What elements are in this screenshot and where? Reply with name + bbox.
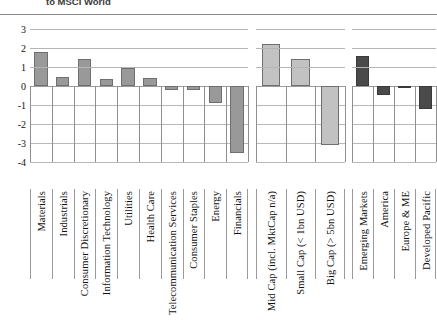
category-label: Information Technology <box>101 191 112 295</box>
gridline-upper <box>30 29 248 30</box>
y-axis-tick-label: 3 <box>21 24 26 35</box>
bar <box>321 86 339 145</box>
category-label: Emerging Markets <box>357 191 368 271</box>
category-cell: Utilities <box>117 189 139 322</box>
category-separator <box>344 189 345 279</box>
bar <box>419 86 432 109</box>
bar <box>100 79 114 86</box>
gridline-upper <box>256 29 345 30</box>
category-label: Consumer Discretionary <box>79 191 90 296</box>
category-separator <box>95 189 96 279</box>
category-separator <box>30 189 31 279</box>
bar <box>209 86 223 103</box>
panel-vertical-rule <box>373 86 374 162</box>
bar <box>377 86 390 95</box>
category-separator <box>139 189 140 279</box>
gridline-upper <box>352 48 436 49</box>
panel-vertical-rule <box>183 86 184 162</box>
panel-vertical-rule <box>139 86 140 162</box>
panel-vertical-rule <box>345 86 346 162</box>
category-separator <box>117 189 118 279</box>
y-axis-tick-label: -3 <box>18 138 26 149</box>
category-separator <box>161 189 162 279</box>
bar <box>165 86 179 90</box>
category-axis: MaterialsIndustrialsConsumer Discretiona… <box>0 189 437 322</box>
panel-vertical-rule <box>117 86 118 162</box>
panel-vertical-rule <box>95 86 96 162</box>
gridline <box>256 162 345 163</box>
title-divider <box>0 14 437 15</box>
panel-market-cap <box>256 20 345 165</box>
y-axis-tick-label: -1 <box>18 100 26 111</box>
category-cell: Europe & ME <box>394 189 415 322</box>
category-label: Industrials <box>57 191 68 236</box>
category-cell: Emerging Markets <box>352 189 373 322</box>
plot-area: 3210-1-2-3-4 <box>0 20 437 192</box>
chart-container: to MSCI World 3210-1-2-3-4 MaterialsIndu… <box>0 0 437 322</box>
category-cell: Mid Cap (incl. MktCap n/a) <box>256 189 286 322</box>
category-cell: Telecommunication Services <box>161 189 183 322</box>
panel-vertical-rule <box>315 86 316 162</box>
category-cell: Health Care <box>139 189 161 322</box>
panel-vertical-rule <box>248 86 249 162</box>
category-label: Financials <box>232 191 243 235</box>
y-axis-tick-label: 1 <box>21 62 26 73</box>
category-label: Big Cap (> 5bn USD) <box>325 191 336 285</box>
bar <box>143 78 157 86</box>
category-cell: America <box>373 189 394 322</box>
category-separator <box>256 189 257 279</box>
bar <box>56 77 70 87</box>
category-separator <box>74 189 75 279</box>
category-label: Mid Cap (incl. MktCap n/a) <box>265 191 276 311</box>
gridline-upper <box>30 67 248 68</box>
y-axis-tick-label: 0 <box>21 81 26 92</box>
chart-title-text: to MSCI World <box>46 0 306 8</box>
bar <box>398 86 411 88</box>
category-label: America <box>378 191 389 228</box>
gridline-upper <box>352 67 436 68</box>
category-separator <box>286 189 287 279</box>
category-separator <box>204 189 205 279</box>
bar <box>34 52 48 86</box>
panel-vertical-rule <box>161 86 162 162</box>
category-separator <box>315 189 316 279</box>
panel-vertical-rule <box>352 86 353 162</box>
category-cell: Information Technology <box>95 189 117 322</box>
gridline-upper <box>256 67 345 68</box>
category-label: Health Care <box>144 191 155 243</box>
panel-sectors <box>30 20 248 165</box>
category-separator <box>226 189 227 279</box>
category-separator <box>352 189 353 279</box>
gridline-upper <box>256 48 345 49</box>
category-label: Consumer Staples <box>188 191 199 269</box>
category-cell: Industrials <box>52 189 74 322</box>
category-separator <box>394 189 395 279</box>
category-separator <box>247 189 248 279</box>
category-label: Materials <box>35 191 46 232</box>
category-cell: Small Cap (< 1bn USD) <box>286 189 316 322</box>
category-cell: Developed Pacific <box>415 189 436 322</box>
gridline-upper <box>352 29 436 30</box>
y-axis-tick-label: 2 <box>21 43 26 54</box>
panel-vertical-rule <box>74 86 75 162</box>
chart-title: to MSCI World <box>46 0 306 10</box>
panel-vertical-rule <box>204 86 205 162</box>
panel-vertical-rule <box>30 86 31 162</box>
bar <box>356 56 369 86</box>
gridline <box>352 162 436 163</box>
category-label: Energy <box>210 191 221 222</box>
category-label: Utilities <box>123 191 134 226</box>
category-separator <box>52 189 53 279</box>
category-cell: Consumer Staples <box>183 189 205 322</box>
category-cell: Materials <box>30 189 52 322</box>
category-label: Small Cap (< 1bn USD) <box>295 191 306 295</box>
bar <box>121 68 135 86</box>
category-separator <box>415 189 416 279</box>
category-label: Europe & ME <box>399 191 410 252</box>
category-cell: Financials <box>226 189 248 322</box>
category-cell: Consumer Discretionary <box>74 189 96 322</box>
category-label: Developed Pacific <box>420 191 431 270</box>
bar <box>78 59 92 86</box>
gridline <box>30 162 248 163</box>
y-axis-tick-label: -2 <box>18 119 26 130</box>
